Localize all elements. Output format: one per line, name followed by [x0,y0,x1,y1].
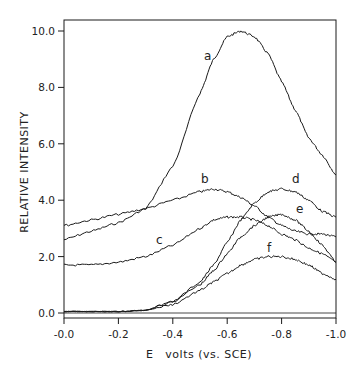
series-line-e [64,214,336,312]
x-tick-label: -0.4 [163,328,184,340]
x-axis-title: E volts (vs. SCE) [146,348,252,361]
curve-label-a: a [204,49,211,63]
y-tick-label: 10.0 [32,25,55,37]
series-line-c [64,216,336,266]
spectroelectrochemical-intensity-chart: 0.0 2.0 4.0 6.0 8.0 10.0 RELATIVE INTENS… [0,0,362,375]
curve-label-b: b [201,172,209,186]
curve-label-c: c [156,233,163,247]
x-tick-label: -0.8 [271,328,292,340]
x-tick-label: -0.0 [54,328,75,340]
y-tick-label: 4.0 [38,194,55,206]
x-axis [64,318,336,324]
y-tick-label: 6.0 [38,138,55,150]
y-tick-labels: 0.0 2.0 4.0 6.0 8.0 10.0 [32,25,55,319]
y-axis-title: RELATIVE INTENSITY [18,111,31,233]
y-axis [58,31,64,313]
y-tick-label: 0.0 [38,307,55,319]
x-tick-label: -1.0 [326,328,347,340]
x-tick-labels: -0.0 -0.2 -0.4 -0.6 -0.8 -1.0 [54,328,347,340]
plot-frame [64,20,336,318]
y-tick-label: 2.0 [38,251,55,263]
curve-label-f: f [267,241,272,255]
y-tick-label: 8.0 [38,81,55,93]
curve-label-d: d [292,172,300,186]
x-tick-label: -0.6 [217,328,238,340]
curve-label-e: e [296,202,303,216]
x-tick-label: -0.2 [108,328,129,340]
